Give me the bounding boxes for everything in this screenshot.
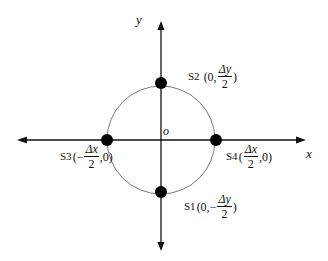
fraction: Δx 2 — [244, 143, 258, 170]
y-axis-up-arrow-icon — [158, 21, 165, 30]
point-s1 — [155, 186, 167, 198]
label-s1: S1 (0, − Δy 2 ) — [184, 193, 237, 220]
point-s4 — [210, 134, 222, 146]
origin-label: o — [163, 124, 169, 139]
x-axis-left-arrow-icon — [17, 137, 27, 144]
label-s3: S3 ( − Δx 2 ,0) — [60, 143, 113, 170]
point-name: S2 — [188, 71, 200, 82]
denominator: 2 — [222, 207, 228, 220]
point-name: S3 — [60, 151, 72, 162]
denominator: 2 — [89, 157, 95, 170]
coord-prefix: (0, — [197, 201, 210, 213]
numerator: Δy — [217, 193, 231, 207]
x-axis-label: x — [306, 146, 312, 162]
point-s2 — [155, 77, 167, 89]
fraction: Δx 2 — [84, 143, 98, 170]
numerator: Δy — [218, 63, 232, 77]
coord-suffix: ) — [233, 71, 237, 83]
fraction: Δy 2 — [218, 63, 232, 90]
label-s2: S2 (0, Δy 2 ) — [188, 63, 237, 90]
coord-suffix: ,0) — [100, 151, 113, 163]
coord-suffix: ,0) — [259, 151, 272, 163]
y-axis-down-arrow-icon — [158, 242, 165, 251]
x-axis-right-arrow-icon — [296, 137, 306, 144]
coord-sign: − — [77, 151, 84, 163]
coord-prefix: ( — [239, 151, 243, 163]
point-name: S1 — [184, 201, 196, 212]
label-s4: S4 ( Δx 2 ,0) — [226, 143, 272, 170]
numerator: Δx — [244, 143, 258, 157]
y-axis-label: y — [136, 12, 142, 28]
coord-prefix: (0, — [204, 71, 217, 83]
denominator: 2 — [222, 77, 228, 90]
coord-suffix: ) — [233, 201, 237, 213]
coord-sign: − — [210, 201, 217, 213]
denominator: 2 — [248, 157, 254, 170]
point-name: S4 — [226, 151, 238, 162]
numerator: Δx — [84, 143, 98, 157]
fraction: Δy 2 — [217, 193, 231, 220]
